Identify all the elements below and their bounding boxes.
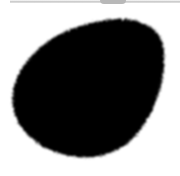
brush-blob [13, 19, 165, 158]
brush-preview-canvas [0, 0, 180, 176]
